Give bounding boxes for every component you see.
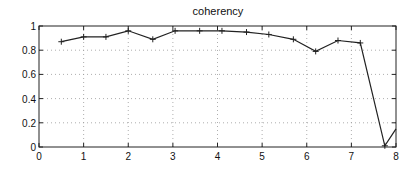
y-tick-label: 0.8 [22,45,36,56]
coherency-series-line [61,31,396,146]
x-tick-label: 5 [259,151,265,162]
x-tick-label: 0 [36,151,42,162]
coherency-chart: 012345678 00.20.40.60.81 coherency [0,0,417,171]
chart-title: coherency [193,5,244,17]
x-tick-label: 1 [81,151,87,162]
x-tick-label: 6 [304,151,310,162]
data-point-markers [58,28,388,149]
x-tick-label: 2 [125,151,131,162]
x-tick-label: 8 [393,151,399,162]
x-tick-label: 3 [170,151,176,162]
y-tick-label: 1 [30,21,36,32]
y-tick-label: 0.4 [22,94,36,105]
grid-lines [39,26,396,147]
x-tick-label: 4 [215,151,221,162]
y-tick-label: 0.6 [22,69,36,80]
y-tick-label: 0.2 [22,118,36,129]
y-tick-label: 0 [30,142,36,153]
x-tick-label: 7 [349,151,355,162]
x-axis-tick-labels: 012345678 [36,151,399,162]
y-axis-tick-labels: 00.20.40.60.81 [22,21,36,153]
